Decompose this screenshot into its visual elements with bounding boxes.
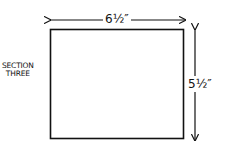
section-rectangle <box>51 30 184 139</box>
section-label-line2: THREE <box>2 70 34 78</box>
width-label: 6½″ <box>103 12 131 26</box>
height-label: 5½″ <box>188 76 212 92</box>
section-label: SECTION THREE <box>2 62 34 78</box>
